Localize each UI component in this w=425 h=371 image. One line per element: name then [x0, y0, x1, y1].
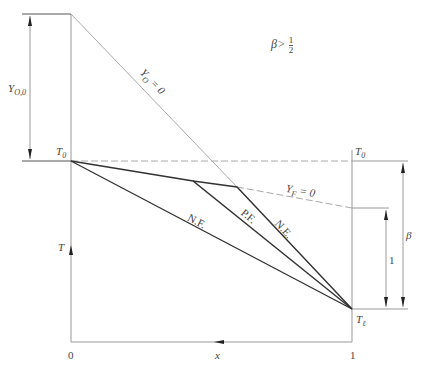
x-axis-label: x — [215, 350, 220, 361]
condition-label: β> 1 2 — [271, 36, 293, 55]
tl-label: Tℓ — [356, 314, 365, 328]
arrow-down-icon — [401, 297, 405, 307]
yo-zero-line — [71, 14, 238, 188]
t0-left-label: T0 — [56, 146, 66, 160]
arrow-down-icon — [28, 149, 32, 159]
arrow-up-icon — [28, 16, 32, 26]
x-one-label: 1 — [350, 350, 356, 361]
t-axis-label: T — [58, 242, 64, 253]
x-axis-arrow-icon — [214, 340, 224, 344]
dim-beta-label: β — [406, 230, 411, 241]
t0-right-label: T0 — [355, 146, 365, 160]
y-o0-label: YO,0 — [8, 83, 26, 97]
arrow-down-icon — [384, 297, 388, 307]
x-zero-label: 0 — [68, 350, 74, 361]
arrow-up-icon — [401, 163, 405, 173]
t-axis-arrow-icon — [69, 245, 73, 255]
dim-one-label: 1 — [389, 255, 395, 266]
arrow-up-icon — [384, 210, 388, 220]
